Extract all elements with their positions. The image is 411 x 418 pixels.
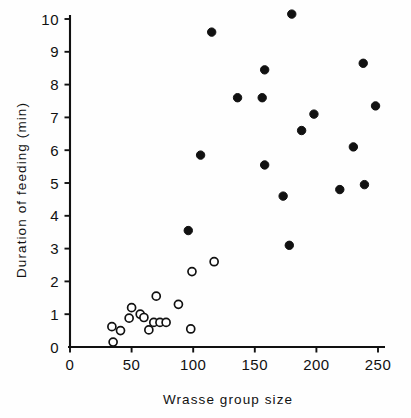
data-point-filled [184,226,192,234]
data-point-open [128,304,136,312]
series-filled-circles [184,10,380,250]
x-axis: 050100150200250 [66,347,392,373]
data-point-open [188,268,196,276]
data-points-layer [108,10,380,346]
data-point-open [187,325,195,333]
data-point-open [174,300,182,308]
data-point-filled [336,185,344,193]
x-tick-label: 0 [66,356,75,373]
data-point-open [117,327,125,335]
data-point-filled [359,59,367,67]
data-point-filled [285,241,293,249]
data-point-filled [297,126,305,134]
plot-canvas: 012345678910 050100150200250 Wrasse grou… [0,0,411,418]
series-open-circles [108,258,218,346]
data-point-open [210,258,218,266]
data-point-filled [233,94,241,102]
data-point-filled [371,102,379,110]
y-tick-label: 5 [50,175,59,192]
data-point-open [108,323,116,331]
y-tick-label: 7 [50,109,59,126]
data-point-filled [260,161,268,169]
data-point-filled [258,94,266,102]
data-point-open [152,292,160,300]
data-point-open [140,313,148,321]
y-tick-label: 2 [50,273,59,290]
y-tick-label: 9 [50,43,59,60]
data-point-filled [196,151,204,159]
x-tick-label: 200 [303,356,330,373]
x-tick-label: 150 [242,356,269,373]
x-tick-label: 50 [123,356,141,373]
data-point-open [162,318,170,326]
data-point-open [145,326,153,334]
y-tick-label: 1 [50,306,59,323]
x-tick-label: 250 [365,356,392,373]
y-tick-label: 6 [50,142,59,159]
y-tick-label: 10 [41,11,59,28]
data-point-filled [207,28,215,36]
y-axis-title: Duration of feeding (min) [14,102,29,278]
y-tick-label: 8 [50,76,59,93]
data-point-filled [288,10,296,18]
data-point-filled [360,180,368,188]
data-point-filled [349,143,357,151]
data-point-filled [260,66,268,74]
data-point-filled [310,110,318,118]
y-axis: 012345678910 [41,11,70,356]
data-point-filled [279,192,287,200]
y-tick-label: 3 [50,240,59,257]
y-tick-label: 4 [50,207,59,224]
data-point-open [109,338,117,346]
scatter-plot-figure: 012345678910 050100150200250 Wrasse grou… [0,0,411,418]
x-tick-label: 100 [180,356,207,373]
y-tick-label: 0 [50,339,59,356]
x-axis-title: Wrasse group size [163,392,293,407]
data-point-open [125,314,133,322]
